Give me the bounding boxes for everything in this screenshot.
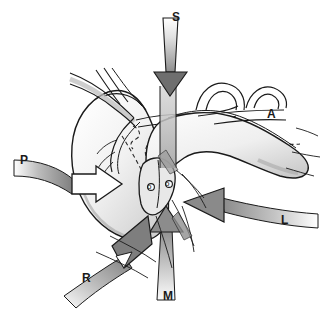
twig-right-1	[296, 128, 318, 136]
arrow-s-group	[154, 18, 187, 96]
loop-inner-top	[206, 91, 237, 110]
label-r: R	[82, 272, 91, 284]
orifice-label-left: o	[147, 183, 151, 191]
loop-outer-right	[246, 87, 287, 108]
label-m: M	[163, 290, 173, 302]
label-a: A	[267, 108, 276, 120]
anatomical-diagram-figure: S A P L R M o o	[0, 0, 328, 312]
arrow-s-head	[154, 72, 187, 96]
arrow-s-shaft	[163, 18, 178, 72]
guide-line-1	[176, 170, 204, 198]
diagram-canvas	[0, 0, 328, 312]
label-s: S	[172, 11, 180, 23]
orifice-label-right: o	[165, 180, 169, 188]
label-l: L	[281, 214, 289, 226]
arrow-l-group	[184, 188, 318, 228]
arrow-l-tail-band	[222, 198, 318, 228]
label-p: P	[20, 154, 28, 166]
